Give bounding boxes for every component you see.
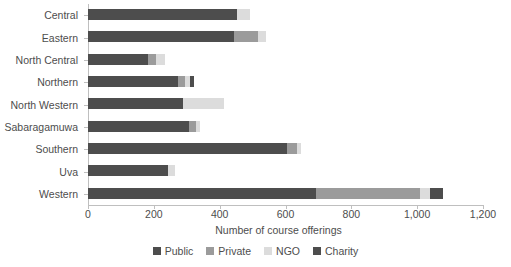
bar-segment-public[interactable] (88, 9, 237, 20)
bar-segment-public[interactable] (88, 188, 316, 199)
x-axis-tick-label: 0 (85, 208, 91, 220)
y-axis-label: Central (44, 9, 78, 21)
x-axis-tick-label: 200 (145, 208, 163, 220)
bar-segment-ngo[interactable] (183, 98, 224, 109)
x-axis-tick-label: 1,200 (470, 208, 496, 220)
legend-item-ngo[interactable]: NGO (264, 245, 300, 257)
x-axis-tick-label: 400 (211, 208, 229, 220)
legend-item-private[interactable]: Private (206, 245, 251, 257)
legend-item-charity[interactable]: Charity (313, 245, 358, 257)
legend-swatch-icon (153, 247, 161, 255)
bar-segment-private[interactable] (287, 143, 297, 154)
bar-segment-ngo[interactable] (168, 165, 175, 176)
x-axis-title: Number of course offerings (0, 224, 511, 236)
bar-segment-private[interactable] (178, 76, 186, 87)
stacked-bar[interactable] (88, 143, 301, 154)
stacked-bar[interactable] (88, 165, 175, 176)
chart-legend: PublicPrivateNGOCharity (0, 245, 511, 257)
x-axis-tick-label: 1,000 (404, 208, 430, 220)
bar-segment-public[interactable] (88, 143, 287, 154)
stacked-bar[interactable] (88, 9, 250, 20)
bar-segment-private[interactable] (189, 121, 196, 132)
x-axis-tick-label: 600 (277, 208, 295, 220)
bar-segment-public[interactable] (88, 54, 148, 65)
bar-segment-public[interactable] (88, 31, 234, 42)
bar-segment-ngo[interactable] (156, 54, 165, 65)
bar-segment-public[interactable] (88, 76, 178, 87)
bar-segment-charity[interactable] (430, 188, 443, 199)
x-axis-title-text: Number of course offerings (215, 224, 341, 236)
legend-label: Private (218, 245, 251, 257)
bar-segment-private[interactable] (316, 188, 420, 199)
bar-segment-ngo[interactable] (297, 143, 302, 154)
legend-label: Charity (325, 245, 358, 257)
legend-swatch-icon (313, 247, 321, 255)
bar-segment-ngo[interactable] (420, 188, 430, 199)
bar-segment-ngo[interactable] (258, 31, 266, 42)
y-axis-label: Sabaragamuwa (4, 121, 78, 133)
bar-chart: CentralEasternNorth CentralNorthernNorth… (0, 0, 511, 267)
x-axis-tick-label: 800 (343, 208, 361, 220)
y-axis-label: North Central (16, 54, 78, 66)
bar-segment-public[interactable] (88, 165, 168, 176)
legend-label: NGO (276, 245, 300, 257)
legend-item-public[interactable]: Public (153, 245, 194, 257)
y-axis-label: Eastern (42, 32, 78, 44)
legend-label: Public (165, 245, 194, 257)
bar-segment-charity[interactable] (190, 76, 194, 87)
stacked-bar[interactable] (88, 98, 224, 109)
bar-segment-ngo[interactable] (237, 9, 250, 20)
y-axis-label: North Western (11, 99, 79, 111)
plot-area (88, 4, 483, 205)
y-axis-label: Uva (59, 166, 78, 178)
y-axis-tick-labels: CentralEasternNorth CentralNorthernNorth… (0, 4, 84, 205)
legend-swatch-icon (206, 247, 214, 255)
y-axis-label: Western (39, 188, 78, 200)
bar-segment-private[interactable] (148, 54, 156, 65)
bar-segment-public[interactable] (88, 98, 183, 109)
stacked-bar[interactable] (88, 54, 165, 65)
stacked-bar[interactable] (88, 31, 266, 42)
stacked-bar[interactable] (88, 188, 443, 199)
legend-swatch-icon (264, 247, 272, 255)
bar-segment-ngo[interactable] (196, 121, 200, 132)
y-axis-label: Northern (37, 76, 78, 88)
bar-segment-private[interactable] (234, 31, 258, 42)
y-axis-label: Southern (35, 143, 78, 155)
bar-segment-public[interactable] (88, 121, 189, 132)
stacked-bar[interactable] (88, 76, 194, 87)
stacked-bar[interactable] (88, 121, 200, 132)
